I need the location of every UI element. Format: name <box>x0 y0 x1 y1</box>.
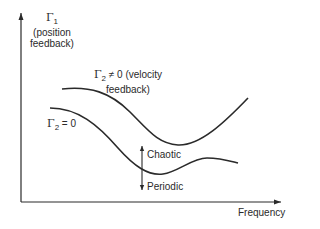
velocity-curve-label-line2: feedback) <box>80 84 176 95</box>
curve-no-velocity-feedback-label: Γ2 = 0 <box>47 118 76 133</box>
curve-velocity-feedback-label: Γ2 ≠ 0 (velocity feedback) <box>80 69 176 95</box>
no-velocity-curve-symbol: Γ <box>47 117 55 130</box>
y-axis-label: Γ1 (position feedback) <box>30 12 74 49</box>
y-axis-symbol: Γ <box>46 11 54 24</box>
curve-velocity-feedback <box>62 88 248 145</box>
x-axis-label: Frequency <box>238 207 285 218</box>
velocity-curve-symbol: Γ <box>94 68 102 81</box>
curve-no-velocity-feedback <box>50 108 238 174</box>
region-label-periodic: Periodic <box>147 181 183 192</box>
y-axis-subscript: 1 <box>54 17 58 26</box>
y-axis-label-line1: (position <box>30 27 74 38</box>
velocity-curve-relation: ≠ 0 (velocity <box>106 69 162 80</box>
y-axis-label-line2: feedback) <box>30 38 74 49</box>
region-label-chaotic: Chaotic <box>147 149 181 160</box>
no-velocity-curve-relation: = 0 <box>59 118 76 129</box>
